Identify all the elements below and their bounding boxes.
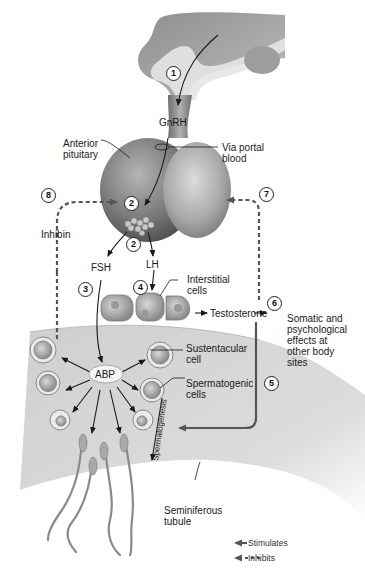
step-2-badge-pituitary: 2	[124, 196, 139, 211]
inhibin-label: Inhibin	[41, 229, 70, 240]
step-3-badge: 3	[78, 282, 93, 297]
interstitial-cells	[101, 293, 190, 321]
lh-label: LH	[146, 259, 159, 270]
posterior-pituitary-lobe	[163, 142, 231, 238]
sustentacular-cell-label: Sustentacular cell	[186, 343, 247, 365]
legend-inhibits-label: Inhibits	[248, 553, 275, 564]
step-2-badge-release: 2	[126, 237, 141, 252]
step-4-badge: 4	[133, 280, 148, 295]
step-8-badge: 8	[41, 188, 56, 203]
tubule-leader	[195, 462, 200, 480]
abp-label: ABP	[95, 369, 115, 380]
via-portal-blood-label: Via portal blood	[222, 142, 264, 164]
spermatogenic-cells-label: Spermatogenic cells	[186, 378, 253, 400]
legend-stimulates-label: Stimulates	[248, 538, 288, 549]
step-6-badge: 6	[267, 296, 282, 311]
testosterone-label: Testosterone	[210, 308, 267, 319]
diagram-artwork	[0, 0, 365, 571]
fsh-arrow	[108, 232, 127, 256]
interstitial-leader	[160, 280, 178, 296]
hypothalamus	[138, 12, 285, 100]
lh-to-interstitial-arrow	[152, 270, 154, 290]
fsh-label: FSH	[91, 262, 111, 273]
testosterone-feedback-path	[228, 200, 259, 300]
hpg-axis-diagram: 1 2 2 3 4 5 6 7 8 GnRH Anterior pituitar…	[0, 0, 365, 571]
step-1-badge: 1	[166, 66, 181, 81]
interstitial-cells-label: Interstitial cells	[187, 274, 230, 296]
anterior-pituitary-label: Anterior pituitary	[63, 138, 98, 160]
somatic-effects-label: Somatic and psychological effects at oth…	[287, 313, 347, 368]
gnrh-label: GnRH	[159, 117, 187, 128]
step-5-badge: 5	[264, 376, 279, 391]
step-7-badge: 7	[259, 187, 274, 202]
seminiferous-tubule-label: Seminiferous tubule	[164, 505, 222, 527]
